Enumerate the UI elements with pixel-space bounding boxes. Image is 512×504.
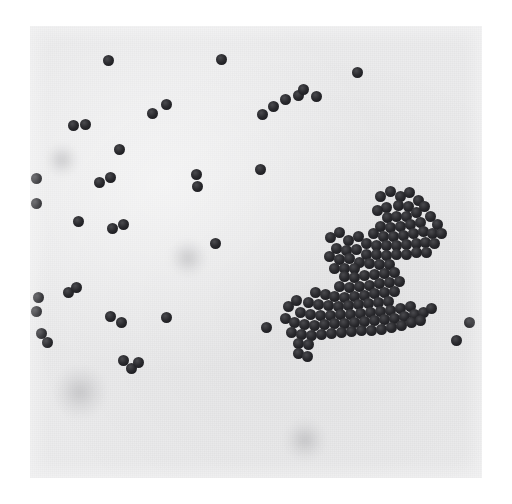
coccus-cell xyxy=(293,338,304,349)
coccus-cell xyxy=(323,300,334,311)
coccus-cell xyxy=(339,271,350,282)
micrograph-canvas xyxy=(0,0,512,504)
coccus-cell xyxy=(289,317,300,328)
coccus-cell xyxy=(305,309,316,320)
coccus-cell xyxy=(310,287,321,298)
coccus-cell xyxy=(356,325,367,336)
coccus-cell xyxy=(326,328,337,339)
coccus-cell xyxy=(366,325,377,336)
cocci-cluster-lower-right xyxy=(30,26,482,478)
coccus-cell xyxy=(291,295,302,306)
coccus-cell xyxy=(336,327,347,338)
coccus-cell xyxy=(316,329,327,340)
coccus-cell xyxy=(396,320,407,331)
coccus-cell xyxy=(415,315,426,326)
coccus-cell xyxy=(313,299,324,310)
coccus-cell xyxy=(302,351,313,362)
coccus-cell xyxy=(299,319,310,330)
photographic-print xyxy=(30,26,482,478)
coccus-cell xyxy=(303,339,314,350)
coccus-cell xyxy=(386,322,397,333)
coccus-cell xyxy=(286,327,297,338)
coccus-cell xyxy=(334,281,345,292)
coccus-cell xyxy=(295,307,306,318)
coccus-cell xyxy=(303,297,314,308)
coccus-cell xyxy=(376,324,387,335)
coccus-cell xyxy=(394,276,405,287)
coccus-cell xyxy=(389,286,400,297)
coccus-cell xyxy=(359,270,370,281)
coccus-cell xyxy=(426,303,437,314)
coccus-cell xyxy=(346,326,357,337)
